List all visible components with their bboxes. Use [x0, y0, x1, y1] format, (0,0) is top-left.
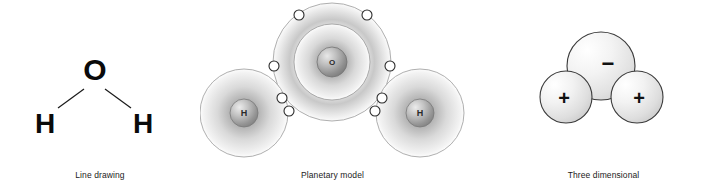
oxygen-nucleus-label: O — [329, 58, 335, 67]
planetary-model-art: O H H — [200, 0, 465, 166]
electron-oxygen-left — [269, 61, 279, 71]
bond-o-h-right — [105, 89, 131, 108]
bond-o-h-left — [58, 89, 84, 108]
electron-shared-right-a — [377, 93, 387, 103]
sign-positive-left: + — [558, 87, 570, 109]
caption-three-dimensional: Three dimensional — [500, 170, 707, 181]
panel-planetary-model: O H H — [200, 0, 465, 194]
hydrogen-right-atom: H — [376, 69, 464, 157]
electron-shared-right-b — [370, 106, 380, 116]
hydrogen-left-atom: H — [200, 69, 288, 157]
atom-label-hydrogen-right: H — [133, 108, 153, 139]
atom-label-oxygen: O — [83, 53, 106, 86]
panel-line-drawing: O H H Line drawing — [0, 0, 200, 194]
electron-oxygen-top-left — [294, 10, 304, 20]
electron-shared-left-a — [277, 93, 287, 103]
oxygen-atom: O — [273, 3, 391, 121]
sign-positive-right: + — [633, 87, 645, 109]
caption-planetary-model: Planetary model — [200, 170, 465, 181]
hydrogen-left-nucleus-label: H — [241, 108, 248, 118]
electron-shared-left-b — [284, 106, 294, 116]
water-molecule-figure: O H H Line drawing — [0, 0, 707, 194]
electron-oxygen-top-right — [362, 10, 372, 20]
electron-oxygen-right — [385, 61, 395, 71]
caption-line-drawing: Line drawing — [0, 170, 200, 181]
panel-three-dimensional: − + + Three dimensional — [500, 0, 707, 194]
three-dimensional-art: − + + — [500, 0, 707, 166]
sign-negative: − — [602, 51, 615, 76]
atom-label-hydrogen-left: H — [35, 108, 55, 139]
line-drawing-art: O H H — [0, 0, 200, 166]
hydrogen-right-nucleus-label: H — [417, 108, 424, 118]
